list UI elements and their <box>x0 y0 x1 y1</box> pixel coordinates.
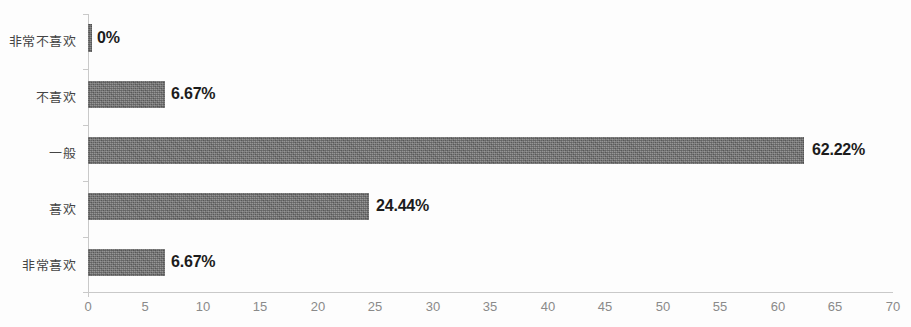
x-tick-label: 30 <box>416 299 450 314</box>
y-axis-tick <box>83 125 88 126</box>
x-tick-label: 50 <box>646 299 680 314</box>
category-label: 不喜欢 <box>0 87 76 105</box>
x-tick-label: 20 <box>301 299 335 314</box>
x-tick-label: 60 <box>761 299 795 314</box>
y-axis-tick <box>83 69 88 70</box>
bar-value <box>88 81 165 108</box>
x-tick-label: 40 <box>531 299 565 314</box>
horizontal-bar-chart: 非常不喜欢 0% 不喜欢 6.67% 一般 62.22% 喜欢 24.44% 非… <box>0 0 911 327</box>
x-tick-label: 15 <box>243 299 277 314</box>
x-axis-line <box>88 292 893 293</box>
x-axis-tick <box>88 293 89 297</box>
x-tick-label: 0 <box>71 299 105 314</box>
x-tick-label: 5 <box>128 299 162 314</box>
category-label: 非常不喜欢 <box>0 31 76 49</box>
y-axis-tick <box>83 181 88 182</box>
category-label: 一般 <box>0 143 76 161</box>
bar-value <box>88 24 92 52</box>
x-tick-label: 25 <box>358 299 392 314</box>
bar-data-label: 6.67% <box>171 85 215 103</box>
x-tick-label: 55 <box>703 299 737 314</box>
x-tick-label: 45 <box>588 299 622 314</box>
category-label: 喜欢 <box>0 199 76 217</box>
y-axis-tick <box>83 14 88 15</box>
x-tick-label: 35 <box>473 299 507 314</box>
x-tick-label: 70 <box>876 299 910 314</box>
bar-data-label: 6.67% <box>171 253 215 271</box>
bar-data-label: 62.22% <box>812 141 865 159</box>
bar-value <box>88 249 165 276</box>
x-tick-label: 10 <box>186 299 220 314</box>
bar-value <box>88 193 369 220</box>
category-label: 非常喜欢 <box>0 255 76 273</box>
bar-value <box>88 137 804 164</box>
y-axis-tick <box>83 237 88 238</box>
bar-data-label: 0% <box>97 29 120 47</box>
x-tick-label: 65 <box>818 299 852 314</box>
bar-data-label: 24.44% <box>376 197 429 215</box>
